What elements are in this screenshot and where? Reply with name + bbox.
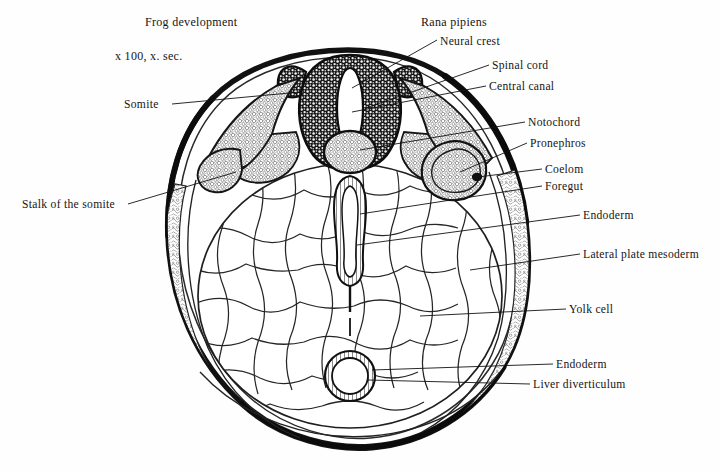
magnification-note: x 100, x. sec. bbox=[115, 50, 183, 62]
notochord bbox=[324, 131, 376, 173]
figure-canvas: Frog development x 100, x. sec. Rana pip… bbox=[0, 0, 719, 472]
embryo-cross-section-drawing bbox=[0, 0, 719, 472]
label-lateral-plate-mesoderm: Lateral plate mesoderm bbox=[583, 249, 699, 261]
label-foregut: Foregut bbox=[545, 181, 583, 193]
label-central-canal: Central canal bbox=[489, 81, 554, 93]
label-stalk-of-the-somite: Stalk of the somite bbox=[22, 199, 115, 211]
pronephros bbox=[422, 141, 486, 200]
label-endoderm-lower: Endoderm bbox=[556, 359, 607, 371]
liver-diverticulum bbox=[325, 351, 375, 401]
label-yolk-cell: Yolk cell bbox=[569, 304, 613, 316]
label-notochord: Notochord bbox=[528, 117, 580, 129]
label-liver-diverticulum: Liver diverticulum bbox=[533, 379, 626, 391]
label-coelom: Coelom bbox=[545, 164, 584, 176]
label-pronephros: Pronephros bbox=[530, 138, 586, 150]
label-spinal-cord: Spinal cord bbox=[492, 60, 548, 72]
species-name: Rana pipiens bbox=[421, 16, 487, 28]
label-somite: Somite bbox=[124, 99, 159, 111]
label-neural-crest: Neural crest bbox=[440, 36, 500, 48]
figure-title: Frog development bbox=[145, 16, 237, 28]
label-endoderm-upper: Endoderm bbox=[583, 210, 634, 222]
